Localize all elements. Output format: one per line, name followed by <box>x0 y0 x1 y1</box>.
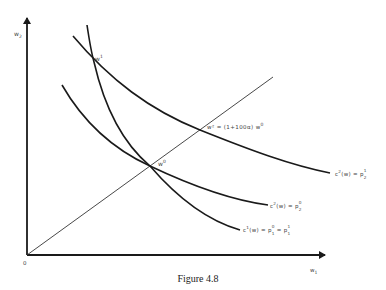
curve-c2-p20-label: c2(w) = p20 <box>270 200 302 212</box>
x-axis-label: w1 <box>310 267 318 275</box>
curve-c1-label: c1(w) = p10 = p11 <box>243 224 291 236</box>
ray-label: w² = (1+100α) w0 <box>207 122 264 130</box>
curve-c2-p21 <box>73 36 330 173</box>
figure-caption: Figure 4.8 <box>177 273 218 284</box>
y-axis-label: w2 <box>14 30 22 39</box>
curve-c2-p21-label: c2(w) = p21 <box>335 168 367 180</box>
w0-label: w0 <box>158 159 166 167</box>
w1-label: w1 <box>95 54 103 62</box>
factor-price-diagram: w2 w1 0 w1 w0 w² = (1+100α) w0 c2(w) = p… <box>0 0 386 290</box>
origin-label: 0 <box>23 260 27 266</box>
